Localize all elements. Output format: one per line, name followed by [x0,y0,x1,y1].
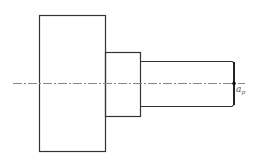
middle-section [106,53,141,117]
shaft-diagram [0,0,255,168]
label-subscript: p [241,88,245,95]
ap-label: ap [236,85,245,95]
